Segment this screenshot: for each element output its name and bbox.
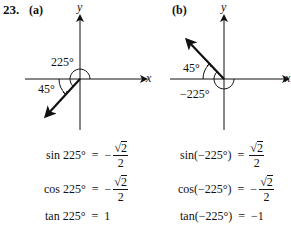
angle-45-arc xyxy=(203,64,209,79)
angle-45-arc xyxy=(59,79,65,94)
panel-a-angle-45-label: 45° xyxy=(38,82,55,97)
fraction: √2 2 xyxy=(113,141,128,169)
equation-sin-neg225: sin(−225°) = √2 2 xyxy=(180,141,264,169)
equation-sin-225: sin 225° = − √2 2 xyxy=(46,141,128,169)
panel-b-x-label: x xyxy=(285,71,290,86)
panel-b-y-label: y xyxy=(221,0,226,15)
panel-a-y-label: y xyxy=(77,0,82,15)
fraction: √2 2 xyxy=(113,175,128,203)
equation-cos-neg225: cos(−225°) = − √2 2 xyxy=(178,175,274,203)
fraction: √2 2 xyxy=(249,141,264,169)
panel-a-x-label: x xyxy=(146,71,151,86)
equation-tan-225: tan 225° = 1 xyxy=(45,209,110,224)
equation-tan-neg225: tan(−225°) = −1 xyxy=(180,209,264,224)
diagrams-svg xyxy=(0,0,291,239)
panel-a-angle-225-label: 225° xyxy=(51,55,74,70)
fraction: √2 2 xyxy=(259,175,274,203)
equation-cos-225: cos 225° = − √2 2 xyxy=(44,175,128,203)
panel-b-angle-neg225-label: −225° xyxy=(180,87,210,102)
panel-a-diagram xyxy=(25,16,146,130)
panel-b-angle-45-label: 45° xyxy=(183,61,200,76)
